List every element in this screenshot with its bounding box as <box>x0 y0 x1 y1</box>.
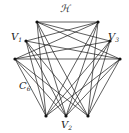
label-v1: V1 <box>11 31 22 43</box>
label-v3: V3 <box>108 31 119 43</box>
vertex-B1 <box>44 114 47 117</box>
graph-diagram: ℋ V1 V3 C6 V2 <box>0 0 129 133</box>
vertex-B3 <box>86 114 89 117</box>
vertex-O2 <box>118 57 121 60</box>
edge-B1-L1 <box>26 41 46 116</box>
edge-B3-R1 <box>88 41 110 116</box>
graph-vertices <box>13 20 121 117</box>
vertex-B2 <box>64 114 67 117</box>
label-h: ℋ <box>60 3 72 14</box>
vertex-O1 <box>13 57 16 60</box>
vertex-L1 <box>24 39 27 42</box>
vertex-T1 <box>35 20 38 23</box>
label-v2: V2 <box>61 119 72 131</box>
label-c6: C6 <box>19 80 31 92</box>
graph-edges <box>15 22 120 116</box>
vertex-T2 <box>96 20 99 23</box>
